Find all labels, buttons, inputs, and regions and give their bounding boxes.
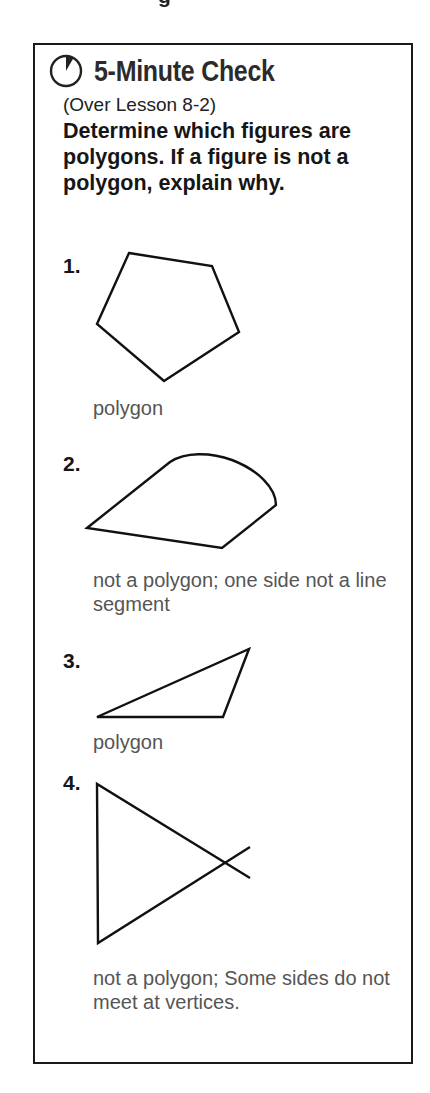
- figures-layer: [0, 0, 430, 1093]
- pentagon-figure: [97, 253, 239, 381]
- triangle-figure: [97, 649, 249, 717]
- crossing-segments-figure: [97, 784, 250, 943]
- curved-side-figure: [87, 454, 276, 548]
